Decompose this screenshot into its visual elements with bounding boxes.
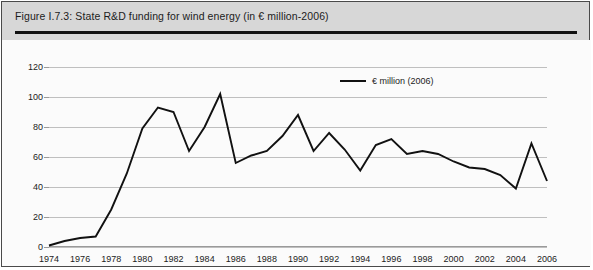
x-tick-label: 1974 xyxy=(39,254,59,264)
x-tick-label: 1976 xyxy=(70,254,90,264)
y-tick-label: 20 xyxy=(33,212,43,222)
x-tick-label: 1982 xyxy=(163,254,183,264)
y-tick-label: 100 xyxy=(28,92,43,102)
gridline-y-0 xyxy=(49,247,547,248)
title-divider xyxy=(15,31,577,34)
x-tick-label: 1980 xyxy=(132,254,152,264)
y-tick-mark xyxy=(44,247,49,248)
data-series-wind-rd-funding xyxy=(49,67,547,247)
x-tick-label: 2004 xyxy=(506,254,526,264)
page-title: Figure I.7.3: State R&D funding for wind… xyxy=(15,10,329,22)
x-tick-label: 1994 xyxy=(350,254,370,264)
x-tick-label: 1978 xyxy=(101,254,121,264)
y-tick-label: 80 xyxy=(33,122,43,132)
x-tick-label: 2000 xyxy=(444,254,464,264)
chart-panel: € million (2006) 020406080100120 1974197… xyxy=(2,40,591,266)
figure-container: Figure I.7.3: State R&D funding for wind… xyxy=(1,1,590,267)
x-tick-label: 1990 xyxy=(288,254,308,264)
x-tick-label: 1984 xyxy=(195,254,215,264)
x-tick-label: 2006 xyxy=(537,254,557,264)
x-tick-label: 1998 xyxy=(412,254,432,264)
x-tick-label: 1996 xyxy=(381,254,401,264)
figure-title-band: Figure I.7.3: State R&D funding for wind… xyxy=(2,2,589,40)
y-tick-label: 40 xyxy=(33,182,43,192)
series-polyline xyxy=(49,94,547,246)
x-tick-label: 1986 xyxy=(226,254,246,264)
y-tick-label: 60 xyxy=(33,152,43,162)
x-tick-label: 1992 xyxy=(319,254,339,264)
y-tick-label: 0 xyxy=(38,242,43,252)
plot-area: 020406080100120 197419761978198019821984… xyxy=(49,67,547,247)
x-tick-label: 2002 xyxy=(475,254,495,264)
x-tick-label: 1988 xyxy=(257,254,277,264)
y-tick-label: 120 xyxy=(28,62,43,72)
